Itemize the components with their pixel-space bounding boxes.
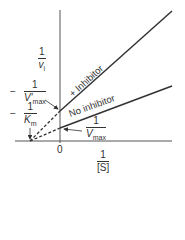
km-sign: − (10, 108, 16, 119)
no-inhibitor-line-dashed (30, 128, 60, 141)
vmax-intercept-label: 1 Vmax (86, 116, 106, 141)
vmax-prime-arrow (45, 100, 58, 109)
origin-label: 0 (57, 145, 63, 155)
vmax-arrow (64, 129, 82, 131)
y-axis-label: 1 vi (38, 47, 46, 72)
x-axis-label: 1 [S] (97, 150, 109, 173)
km-intercept-label: 1 Km (24, 102, 37, 127)
vmax-prime-sign: − (10, 86, 16, 97)
